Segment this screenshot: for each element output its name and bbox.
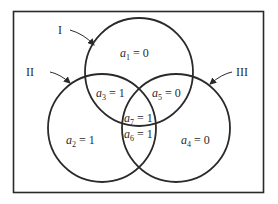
- arrow-icon: [210, 72, 232, 84]
- region-label-a1: a1 = 0: [120, 46, 149, 62]
- region-label-a2: a2 = 1: [66, 133, 95, 149]
- region-label-a3: a3 = 1: [96, 86, 125, 102]
- region-label-a6: a6 = 1: [124, 127, 153, 143]
- set-circles: [48, 18, 230, 182]
- region-label-a7: a7 = 1: [124, 111, 153, 127]
- set-label-I: I: [58, 23, 62, 37]
- set-label-III: III: [236, 65, 248, 79]
- arrow-icon: [70, 30, 94, 45]
- venn-diagram: IIIIII a1 = 0a2 = 1a3 = 1a4 = 0a5 = 0a6 …: [0, 0, 278, 204]
- region-label-a5: a5 = 0: [152, 86, 181, 102]
- set-label-II: II: [26, 65, 34, 79]
- arrow-icon: [50, 72, 70, 83]
- region-labels: a1 = 0a2 = 1a3 = 1a4 = 0a5 = 0a6 = 1a7 =…: [66, 46, 210, 149]
- region-label-a4: a4 = 0: [181, 133, 210, 149]
- set-circle-I: [85, 18, 193, 126]
- universe-box: [14, 12, 264, 193]
